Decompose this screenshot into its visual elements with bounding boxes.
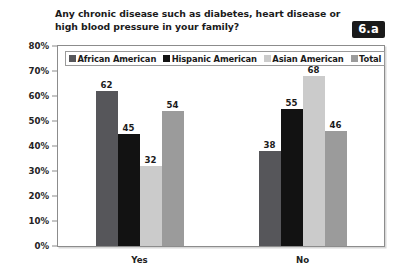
legend-entry[interactable]: Total xyxy=(351,54,382,64)
legend-swatch-icon xyxy=(69,55,76,62)
bar[interactable] xyxy=(140,166,162,246)
x-axis-tick-label: No xyxy=(273,255,333,265)
legend-entry[interactable]: Hispanic American xyxy=(163,54,257,64)
legend-swatch-icon xyxy=(351,55,358,62)
bar-value-label: 54 xyxy=(158,100,188,110)
chart-figure: Any chronic disease such as diabetes, he… xyxy=(0,0,404,276)
y-axis-tick-label: 20% xyxy=(28,191,49,201)
bar[interactable] xyxy=(162,111,184,246)
legend-label: Asian American xyxy=(272,54,343,64)
chart-legend: African AmericanHispanic AmericanAsian A… xyxy=(65,51,385,66)
chart-title: Any chronic disease such as diabetes, he… xyxy=(55,8,340,33)
bar-value-label: 68 xyxy=(299,65,329,75)
y-axis-tick-label: 0% xyxy=(34,241,49,251)
y-axis-tick-label: 70% xyxy=(28,66,49,76)
y-axis: 0%10%20%30%40%50%60%70%80% xyxy=(0,45,57,247)
y-axis-tick-label: 80% xyxy=(28,41,49,51)
y-axis-tick-label: 30% xyxy=(28,166,49,176)
legend-swatch-icon xyxy=(163,55,170,62)
bar[interactable] xyxy=(325,131,347,246)
bar[interactable] xyxy=(303,76,325,246)
y-axis-tick-label: 10% xyxy=(28,216,49,226)
legend-entry[interactable]: African American xyxy=(69,54,156,64)
bar-group: 62453254 xyxy=(58,46,221,246)
bar-value-label: 62 xyxy=(92,80,122,90)
y-axis-tick-label: 60% xyxy=(28,91,49,101)
bar[interactable] xyxy=(96,91,118,246)
y-axis-tick-label: 50% xyxy=(28,116,49,126)
legend-entry[interactable]: Asian American xyxy=(264,54,344,64)
bar-group: 38556846 xyxy=(221,46,384,246)
bar-value-label: 46 xyxy=(321,120,351,130)
bar-layer: 6245325438556846 xyxy=(58,46,384,246)
x-axis: YesNo xyxy=(57,247,385,271)
bar[interactable] xyxy=(118,134,140,247)
legend-label: Total xyxy=(359,54,381,64)
legend-swatch-icon xyxy=(264,55,271,62)
bar[interactable] xyxy=(259,151,281,246)
x-axis-tick-label: Yes xyxy=(110,255,170,265)
legend-label: Hispanic American xyxy=(172,54,257,64)
y-axis-tick-label: 40% xyxy=(28,141,49,151)
figure-number-badge: 6.a xyxy=(352,21,385,38)
bar-value-label: 45 xyxy=(114,123,144,133)
legend-label: African American xyxy=(78,54,157,64)
chart-title-line-1: Any chronic disease such as diabetes, he… xyxy=(55,8,340,21)
bar[interactable] xyxy=(281,109,303,247)
chart-title-line-2: high blood pressure in your family? xyxy=(55,21,340,34)
